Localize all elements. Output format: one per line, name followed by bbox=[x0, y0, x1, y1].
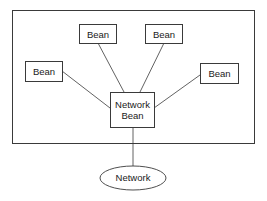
connector-right bbox=[154, 75, 200, 108]
bean-label: Bean bbox=[208, 68, 230, 79]
network-bean-line1: Network bbox=[115, 99, 150, 110]
network-bean-box: Network Bean bbox=[110, 92, 155, 128]
connector-top-left bbox=[98, 43, 124, 92]
bean-label: Bean bbox=[87, 29, 109, 40]
bean-label: Bean bbox=[33, 66, 55, 77]
bean-box-right: Bean bbox=[200, 63, 239, 84]
connector-top-right bbox=[140, 43, 164, 92]
bean-label: Bean bbox=[153, 29, 175, 40]
bean-box-top-left: Bean bbox=[79, 24, 117, 44]
bean-box-top-right: Bean bbox=[145, 24, 183, 44]
bean-box-left: Bean bbox=[25, 61, 63, 82]
network-bean-line2: Bean bbox=[121, 110, 143, 121]
connector-left bbox=[62, 71, 110, 108]
network-label: Network bbox=[100, 172, 166, 183]
